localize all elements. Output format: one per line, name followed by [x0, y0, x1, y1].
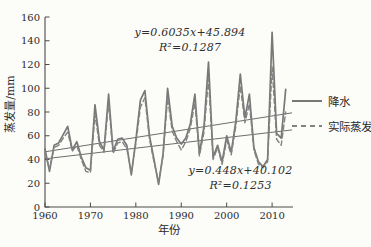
- legend-item-precipitation: 降水: [292, 93, 371, 109]
- trend-equation-precipitation-formula: y=0.6035x+45.894: [105, 25, 275, 40]
- trend-equation-precipitation-r2: R²=0.1287: [105, 40, 275, 55]
- trend-line-precipitation: [45, 113, 292, 152]
- x-axis-tick-label-1980: 1980: [123, 210, 148, 221]
- solid-line-swatch-icon: [292, 100, 322, 102]
- x-axis-title: 年份: [45, 221, 293, 237]
- y-axis-tick-label-80: 80: [27, 107, 40, 118]
- legend: 降水 实际蒸发: [292, 93, 371, 134]
- trend-equation-evaporation-r2: R²=0.1253: [158, 178, 323, 193]
- x-axis-tick-label-2010: 2010: [259, 210, 284, 221]
- y-axis-tick-label-160: 160: [21, 12, 40, 23]
- x-axis-tick-label-1990: 1990: [169, 210, 194, 221]
- y-axis-tick-label-20: 20: [27, 178, 40, 189]
- legend-label-precipitation: 降水: [328, 93, 350, 109]
- trend-equation-evaporation-formula: y=0.448x+40.102: [158, 163, 323, 178]
- dashed-line-swatch-icon: [292, 125, 322, 127]
- y-axis-tick-label-120: 120: [21, 59, 40, 70]
- y-axis-title: 蒸发量/mm: [1, 44, 15, 164]
- evaporation-precipitation-chart: 0204060801001201401601960197019801990200…: [0, 0, 371, 247]
- legend-item-actual-evaporation: 实际蒸发: [292, 118, 371, 134]
- legend-label-actual-evaporation: 实际蒸发: [328, 118, 371, 134]
- x-axis-tick-label-1960: 1960: [32, 210, 57, 221]
- trend-equation-evaporation: y=0.448x+40.102 R²=0.1253: [158, 163, 323, 193]
- y-axis-tick-label-100: 100: [21, 83, 40, 94]
- x-axis-tick-label-1970: 1970: [78, 210, 103, 221]
- y-axis-tick-label-40: 40: [27, 154, 40, 165]
- x-axis-tick-label-2000: 2000: [214, 210, 239, 221]
- trend-equation-precipitation: y=0.6035x+45.894 R²=0.1287: [105, 25, 275, 55]
- y-axis-tick-label-140: 140: [21, 35, 40, 46]
- y-axis-tick-label-60: 60: [27, 130, 40, 141]
